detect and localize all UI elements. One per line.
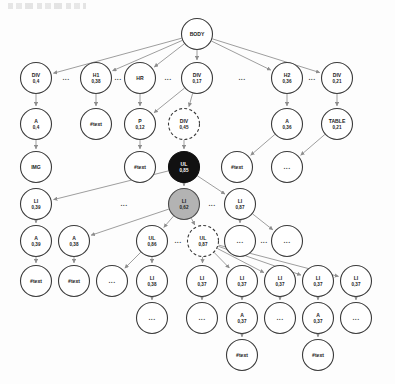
tree-node[interactable]: A0,36 [272, 109, 303, 140]
tree-node[interactable]: DIV0,21 [322, 63, 353, 94]
tree-edge [125, 252, 141, 268]
node-circle [59, 226, 90, 257]
sibling-ellipsis: ... [62, 74, 69, 81]
node-score-value: 0,4 [33, 125, 40, 130]
node-tag-label: IMG [31, 164, 41, 170]
tree-node[interactable]: #text [227, 340, 258, 371]
node-score-value: 0,45 [180, 125, 189, 130]
node-circle [225, 189, 256, 220]
tree-node[interactable]: HR [125, 63, 156, 94]
node-circle [272, 109, 303, 140]
node-tag-label: LI [150, 275, 155, 281]
tree-node[interactable]: LI0,38 [137, 266, 168, 297]
tree-node[interactable]: ... [187, 303, 218, 334]
node-ellipsis: ... [108, 277, 115, 284]
tree-node[interactable]: UL0,87 [188, 226, 219, 257]
tree-node[interactable]: LI0,37 [227, 266, 258, 297]
node-ellipsis: ... [236, 237, 243, 244]
node-score-value: 0,37 [314, 319, 323, 324]
tree-node[interactable]: H10,38 [81, 63, 112, 94]
tree-node[interactable]: UL0,85 [169, 152, 200, 183]
tree-node[interactable]: P0,12 [125, 109, 156, 140]
node-score-value: 0,21 [333, 125, 342, 130]
node-tag-label: DIV [180, 118, 189, 124]
node-circle [227, 266, 258, 297]
tree-node[interactable]: A0,38 [59, 226, 90, 257]
node-ellipsis: ... [283, 237, 290, 244]
tree-node[interactable]: LI0,87 [225, 189, 256, 220]
node-circle [322, 109, 353, 140]
tree-node[interactable]: #text [21, 266, 52, 297]
tree-node[interactable]: BODY [182, 19, 213, 50]
node-score-value: 0,12 [136, 125, 145, 130]
node-tag-label: LI [240, 275, 245, 281]
node-circle [227, 303, 258, 334]
tree-edge [53, 38, 181, 73]
node-score-value: 0,21 [333, 79, 342, 84]
node-tag-label: #text [68, 278, 80, 284]
tree-node[interactable]: ... [97, 266, 128, 297]
node-circle [341, 266, 372, 297]
tree-node[interactable]: LI0,39 [21, 189, 52, 220]
tree-node[interactable]: A0,37 [303, 303, 334, 334]
tree-node[interactable]: DIV0,17 [182, 63, 213, 94]
node-score-value: 0,37 [352, 282, 361, 287]
node-score-value: 0,38 [148, 282, 157, 287]
tree-node[interactable]: H20,36 [272, 63, 303, 94]
tree-node[interactable]: LI0,37 [265, 266, 296, 297]
tree-node[interactable]: LI0,37 [303, 266, 334, 297]
node-circle [21, 226, 52, 257]
node-tag-label: #text [30, 278, 42, 284]
tree-node[interactable]: UL0,86 [137, 226, 168, 257]
tree-node[interactable]: A0,4 [21, 109, 52, 140]
node-score-value: 0,17 [193, 79, 202, 84]
tree-node[interactable]: IMG [21, 152, 52, 183]
node-tag-label: BODY [190, 31, 205, 37]
tree-node[interactable]: ... [272, 152, 303, 183]
node-circle [125, 109, 156, 140]
tree-node[interactable]: #text [59, 266, 90, 297]
node-circle [21, 109, 52, 140]
tree-node[interactable]: ... [265, 303, 296, 334]
tree-node[interactable]: A0,37 [227, 303, 258, 334]
tree-node[interactable]: #text [125, 152, 156, 183]
node-tag-label: #text [134, 164, 146, 170]
node-tag-label: LI [316, 275, 321, 281]
sibling-ellipsis: ... [114, 74, 121, 81]
tree-node[interactable]: ... [341, 303, 372, 334]
tree-node[interactable]: DIV0,4 [21, 63, 52, 94]
node-score-value: 0,37 [238, 319, 247, 324]
tree-node[interactable]: #text [303, 340, 334, 371]
node-tag-label: HR [136, 75, 144, 81]
node-tag-label: LI [34, 198, 39, 204]
tree-node[interactable]: DIV0,45 [169, 109, 200, 140]
node-score-value: 0,37 [276, 282, 285, 287]
tree-node[interactable]: LI0,37 [341, 266, 372, 297]
node-circle [322, 63, 353, 94]
sibling-ellipsis: ... [174, 237, 181, 244]
tree-node[interactable]: LI0,62 [169, 189, 200, 220]
node-score-value: 0,86 [148, 242, 157, 247]
tree-node[interactable]: ... [225, 226, 256, 257]
tree-node[interactable]: #text [81, 109, 112, 140]
node-circle [272, 63, 303, 94]
tree-node[interactable]: ... [272, 226, 303, 257]
tree-node[interactable]: #text [222, 152, 253, 183]
sibling-ellipsis: ... [308, 74, 315, 81]
node-score-value: 0,4 [33, 79, 40, 84]
sibling-ellipsis: ... [120, 200, 127, 207]
node-tag-label: A [34, 118, 38, 124]
node-ellipsis: ... [148, 314, 155, 321]
tree-node[interactable]: LI0,37 [187, 266, 218, 297]
tree-edge [191, 218, 194, 225]
tree-edge [154, 44, 184, 67]
node-score-value: 0,37 [198, 282, 207, 287]
node-tag-label: A [34, 235, 38, 241]
tree-node[interactable]: A0,39 [21, 226, 52, 257]
node-tag-label: DIV [32, 72, 41, 78]
tree-node[interactable]: ... [137, 303, 168, 334]
node-score-value: 0,39 [32, 205, 41, 210]
node-score-value: 0,36 [283, 125, 292, 130]
tree-node[interactable]: TABLE0,21 [322, 109, 353, 140]
node-tag-label: UL [200, 235, 207, 241]
